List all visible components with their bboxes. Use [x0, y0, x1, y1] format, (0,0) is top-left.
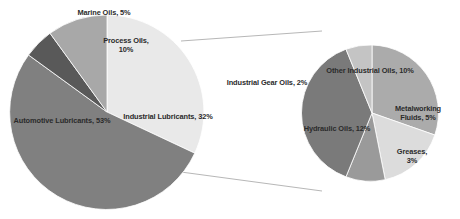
label-other-industrial-oils: Other Industrial Oils, 10%: [322, 66, 418, 75]
label-industrial-lubricants: Industrial Lubricants, 32%: [118, 112, 218, 121]
label-metalworking-fluids: Metalworking Fluids, 5%: [387, 104, 449, 123]
label-industrial-gear-oils: Industrial Gear Oils, 2%: [222, 78, 312, 87]
label-automotive-lubricants: Automotive Lubricants, 53%: [10, 116, 114, 125]
label-greases: Greases, 3%: [390, 147, 434, 166]
label-process-oils: Process Oils, 10%: [98, 36, 154, 55]
label-marine-oils: Marine Oils, 5%: [56, 8, 152, 17]
pie-of-pie-chart: Marine Oils, 5% Process Oils, 10% Automo…: [0, 0, 460, 219]
label-hydraulic-oils: Hydraulic Oils, 12%: [300, 124, 374, 133]
